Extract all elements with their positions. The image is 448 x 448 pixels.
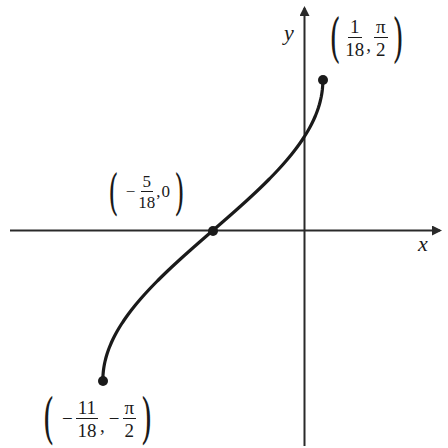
x-intercept-label: ( − 5 18 , 0 ) <box>104 168 189 216</box>
y-axis-label: y <box>284 20 294 46</box>
top-endpoint-label: ( 1 18 , π 2 ) <box>325 12 408 64</box>
graph-canvas <box>0 0 448 448</box>
left-paren: ( <box>108 168 118 216</box>
x-intercept-dot <box>208 226 218 236</box>
y-fraction: π 2 <box>123 398 137 440</box>
bottom-endpoint-dot <box>98 376 108 386</box>
x-fraction: 1 18 <box>345 17 364 59</box>
right-paren: ) <box>392 12 403 64</box>
right-paren: ) <box>141 392 153 446</box>
top-endpoint-dot <box>318 75 328 85</box>
y-fraction: π 2 <box>374 17 388 59</box>
right-paren: ) <box>174 168 184 216</box>
x-axis-label: x <box>418 231 428 257</box>
left-paren: ( <box>43 392 55 446</box>
x-fraction: 11 18 <box>76 398 98 440</box>
bottom-endpoint-label: ( − 11 18 , − π 2 ) <box>38 392 157 446</box>
y-value: 0 <box>162 182 171 202</box>
left-paren: ( <box>330 12 341 64</box>
x-fraction: 5 18 <box>138 173 155 211</box>
